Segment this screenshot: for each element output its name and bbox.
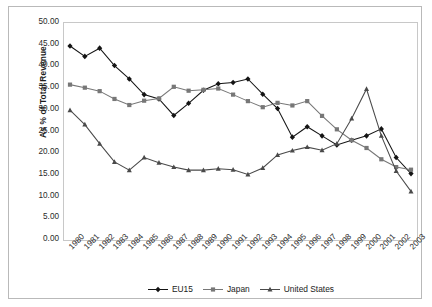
data-point-marker — [350, 138, 354, 142]
data-point-marker — [230, 80, 235, 86]
legend-label: EU15 — [172, 284, 193, 294]
data-point-marker — [290, 103, 294, 107]
y-tick-label: 20.00 — [13, 148, 59, 156]
y-tick-label: 35.00 — [13, 83, 59, 91]
data-point-marker — [157, 96, 161, 100]
legend-marker-icon — [202, 285, 224, 294]
legend-item-united-states[interactable]: United States — [259, 284, 334, 294]
legend-marker-icon — [259, 285, 281, 294]
data-point-marker — [83, 86, 87, 90]
data-point-marker — [409, 168, 413, 172]
data-point-marker — [364, 146, 368, 150]
data-point-marker — [275, 101, 279, 105]
legend-label: Japan — [227, 284, 250, 294]
data-point-marker — [216, 81, 221, 87]
chart-area: As % of Total Revenue 50.0045.0040.0035.… — [11, 9, 419, 297]
data-point-marker — [335, 127, 339, 131]
data-point-marker — [68, 83, 72, 87]
data-point-marker — [216, 86, 220, 90]
data-point-marker — [68, 108, 73, 113]
data-point-marker — [155, 286, 160, 292]
data-point-marker — [187, 89, 191, 93]
y-axis-tick-labels: 50.0045.0040.0035.0030.0025.0020.0015.00… — [11, 9, 59, 254]
data-point-marker — [142, 99, 146, 103]
data-point-marker — [364, 86, 369, 91]
y-tick-label: 25.00 — [13, 127, 59, 135]
y-tick-label: 5.00 — [13, 213, 59, 221]
data-point-marker — [261, 105, 265, 109]
y-tick-label: 10.00 — [13, 192, 59, 200]
chart-legend: EU15JapanUnited States — [63, 281, 418, 297]
y-tick-label: 0.00 — [13, 235, 59, 243]
data-point-marker — [127, 103, 131, 107]
data-point-marker — [201, 88, 205, 92]
data-point-marker — [82, 54, 87, 60]
data-point-marker — [67, 43, 72, 49]
data-point-marker — [290, 134, 295, 140]
data-point-marker — [364, 133, 369, 139]
legend-marker-icon — [147, 285, 169, 294]
data-point-marker — [172, 85, 176, 89]
data-point-marker — [211, 287, 215, 291]
data-point-marker — [246, 99, 250, 103]
series-lines — [64, 23, 417, 240]
data-point-marker — [112, 97, 116, 101]
data-point-marker — [379, 157, 383, 161]
data-point-marker — [98, 89, 102, 93]
series-line — [70, 85, 411, 170]
series-line — [70, 89, 411, 191]
legend-label: United States — [284, 284, 334, 294]
data-point-marker — [305, 99, 309, 103]
data-point-marker — [349, 116, 354, 121]
chart-figure: As % of Total Revenue 50.0045.0040.0035.… — [0, 0, 432, 307]
data-point-marker — [379, 133, 384, 138]
data-point-marker — [305, 144, 310, 149]
data-point-marker — [319, 133, 324, 139]
series-line — [70, 46, 411, 174]
y-tick-label: 15.00 — [13, 170, 59, 178]
data-point-marker — [231, 93, 235, 97]
data-point-marker — [320, 114, 324, 118]
legend-item-japan[interactable]: Japan — [202, 284, 250, 294]
data-point-marker — [305, 124, 310, 130]
series-japan — [68, 83, 413, 172]
data-point-marker — [142, 155, 147, 160]
series-eu15 — [67, 43, 413, 176]
y-tick-label: 50.00 — [13, 18, 59, 26]
y-tick-label: 45.00 — [13, 40, 59, 48]
plot-area — [63, 22, 418, 241]
y-tick-label: 40.00 — [13, 61, 59, 69]
legend-item-eu15[interactable]: EU15 — [147, 284, 193, 294]
y-tick-label: 30.00 — [13, 105, 59, 113]
series-united-states — [68, 86, 414, 193]
